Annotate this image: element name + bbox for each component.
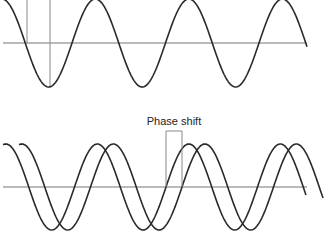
phase-shift-label: Phase shift [147,115,201,127]
phase-shift-diagram: Phase shift [0,0,327,247]
bottom-panel [3,131,323,230]
top-panel [0,0,307,88]
diagram-svg: Phase shift [0,0,327,247]
